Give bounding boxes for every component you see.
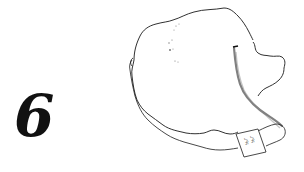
shell-crease-shading	[234, 48, 282, 126]
crease-tip-mark	[233, 46, 238, 47]
surface-speckles	[168, 24, 179, 63]
shell-notch-outline	[253, 42, 285, 96]
specimen-label-tag: ᒍᕋᕋ ᒍᕋᕋ	[236, 129, 266, 157]
illustration-canvas: 6 ᒍᕋᕋ ᒍᕋᕋ	[0, 0, 304, 172]
shell-rim-outline	[130, 60, 238, 150]
shell-outline	[140, 8, 253, 40]
shell-specimen-drawing: ᒍᕋᕋ ᒍᕋᕋ	[0, 0, 304, 172]
